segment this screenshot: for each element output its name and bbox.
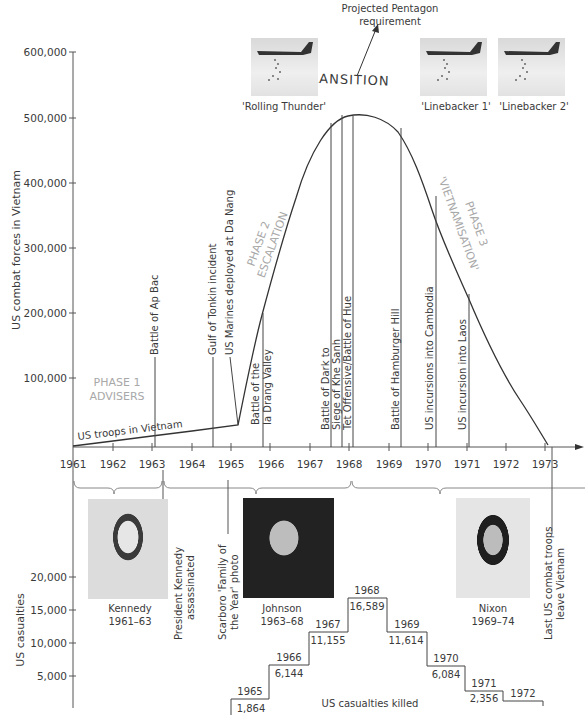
top-y-tick-labels: 600,000 500,000 400,000 300,000 200,000 … xyxy=(24,46,67,384)
kennedy-portrait xyxy=(88,499,168,599)
johnson-portrait xyxy=(243,498,334,598)
event-hamburger-hill: Battle of Hamburger Hill xyxy=(390,309,401,430)
x-tick-1969: 1969 xyxy=(376,458,403,470)
linebacker2-caption: 'Linebacker 2' xyxy=(499,101,569,112)
kennedy-assassinated-line1: President Kennedy xyxy=(173,547,184,640)
casualties-caption: US casualties killed xyxy=(322,698,419,709)
x-tick-1962: 1962 xyxy=(100,458,127,470)
event-marker-lines xyxy=(155,115,469,447)
johnson-name: Johnson xyxy=(261,603,301,614)
x-tick-1966: 1966 xyxy=(258,458,285,470)
phase1-label: PHASE 1 xyxy=(94,376,141,389)
x-tick-1965: 1965 xyxy=(218,458,245,470)
president-term-braces xyxy=(74,481,585,494)
event-laos: US incursion into Laos xyxy=(457,319,468,430)
casualty-year-1969: 1969 xyxy=(394,619,419,630)
peak-annotation-line1: Projected Pentagon xyxy=(342,3,439,14)
bomber-icon xyxy=(498,38,565,96)
casualty-value-1971: 2,356 xyxy=(470,693,499,704)
nixon-name: Nixon xyxy=(479,603,507,614)
kennedy-name: Kennedy xyxy=(108,603,151,614)
bottom-y-tick-labels: 20,000 15,000 10,000 5,000 xyxy=(30,571,67,682)
kennedy-term: 1961–63 xyxy=(108,616,151,627)
x-tick-1972: 1972 xyxy=(493,458,520,470)
scarboro-photo-line1: Scarboro 'Family of xyxy=(217,544,228,640)
bottom-y-axis-title: US casualties xyxy=(14,593,27,667)
y-tick-300000: 300,000 xyxy=(24,242,67,254)
event-dak-to: Battle of Dark to xyxy=(320,347,331,430)
event-ia-drang-2: Ia Drang Valley xyxy=(262,349,273,425)
event-khe-sanh: Siege of Khe Sanh xyxy=(331,339,342,430)
y-tick-200000: 200,000 xyxy=(24,307,67,319)
event-labels: Battle of Ap Bac Gulf of Tonkin incident… xyxy=(149,190,468,431)
bomber-icon xyxy=(251,38,318,96)
x-tick-1971: 1971 xyxy=(454,458,481,470)
top-y-axis-title: US combat forces in Vietnam xyxy=(10,170,23,330)
y-tick-20000: 20,000 xyxy=(30,571,67,583)
casualty-value-1966: 6,144 xyxy=(275,668,304,679)
y-tick-100000: 100,000 xyxy=(24,372,67,384)
nixon-term: 1969–74 xyxy=(471,616,514,627)
casualty-year-1966: 1966 xyxy=(276,652,301,663)
x-tick-1973: 1973 xyxy=(532,458,559,470)
y-tick-400000: 400,000 xyxy=(24,177,67,189)
x-tick-1967: 1967 xyxy=(297,458,324,470)
casualty-year-1967: 1967 xyxy=(315,619,340,630)
casualty-year-1968: 1968 xyxy=(354,585,379,596)
x-tick-1963: 1963 xyxy=(139,458,166,470)
phase1-sub-label: ADVISERS xyxy=(89,390,144,403)
kennedy-assassinated-line2: assassinated xyxy=(185,555,196,620)
johnson-term: 1963–68 xyxy=(260,616,303,627)
event-cambodia: US incursions into Cambodia xyxy=(424,286,435,430)
bomber-icon xyxy=(420,38,487,96)
x-tick-1970: 1970 xyxy=(415,458,442,470)
x-axis xyxy=(73,443,576,451)
event-ia-drang-1: Battle of the xyxy=(250,363,261,425)
x-tick-1964: 1964 xyxy=(179,458,206,470)
linebacker2-photo xyxy=(498,38,565,96)
x-tick-1968: 1968 xyxy=(336,458,363,470)
linebacker1-caption: 'Linebacker 1' xyxy=(421,101,491,112)
casualty-value-1970: 6,084 xyxy=(432,669,461,680)
casualty-year-1970: 1970 xyxy=(433,653,458,664)
peak-annotation-line2: requirement xyxy=(359,16,421,27)
rolling-thunder-caption: 'Rolling Thunder' xyxy=(242,101,326,112)
y-tick-600000: 600,000 xyxy=(24,46,67,58)
last-troops-line1: Last US combat troops xyxy=(543,527,554,640)
casualty-value-1965: 1,864 xyxy=(237,703,266,714)
casualty-year-1972: 1972 xyxy=(510,688,535,699)
top-y-axis xyxy=(69,52,76,447)
vietnam-war-timeline-chart: 600,000 500,000 400,000 300,000 200,000 … xyxy=(0,0,585,726)
nixon-portrait xyxy=(456,498,530,598)
casualty-year-1965: 1965 xyxy=(237,686,262,697)
x-axis-arrow-icon xyxy=(575,444,584,450)
scarboro-photo-line2: the Year' photo xyxy=(229,554,240,630)
y-tick-5000: 5,000 xyxy=(37,670,67,682)
linebacker1-photo xyxy=(420,38,487,96)
event-gulf-of-tonkin: Gulf of Tonkin incident xyxy=(207,243,218,355)
event-da-nang: US Marines deployed at Da Nang xyxy=(224,190,235,355)
casualty-value-1969: 11,614 xyxy=(389,635,424,646)
peak-arrow xyxy=(357,24,379,76)
y-tick-15000: 15,000 xyxy=(30,604,67,616)
y-tick-500000: 500,000 xyxy=(24,112,67,124)
casualty-value-1967: 11,155 xyxy=(311,635,346,646)
event-ap-bac: Battle of Ap Bac xyxy=(149,274,160,355)
y-tick-10000: 10,000 xyxy=(30,637,67,649)
casualty-value-1968: 16,589 xyxy=(350,601,385,612)
rolling-thunder-photo xyxy=(251,38,318,96)
last-troops-line2: leave Vietnam xyxy=(555,548,566,620)
event-tet-offensive: Tet Offensive/Battle of Hue xyxy=(342,296,353,431)
x-tick-labels: 1961 1962 1963 1964 1965 1966 1967 1968 … xyxy=(60,458,559,470)
casualty-year-1971: 1971 xyxy=(471,678,496,689)
